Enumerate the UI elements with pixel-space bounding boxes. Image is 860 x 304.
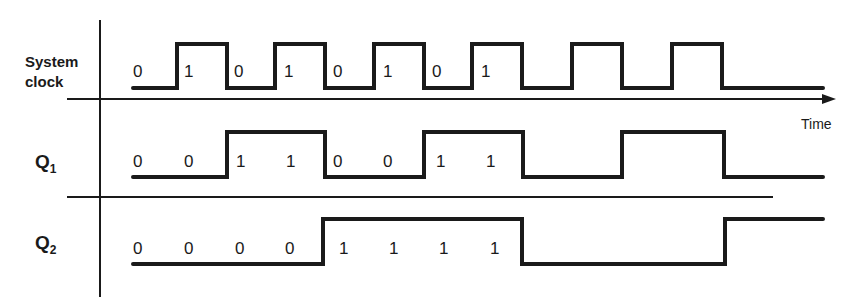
clock-value: 1: [383, 62, 392, 81]
q2-value: 1: [339, 239, 348, 258]
time-label: Time: [801, 116, 832, 132]
clock-values: 0 1 0 1 0 1 0 1: [133, 62, 490, 81]
q1-value: 0: [133, 152, 142, 171]
q2-value: 0: [133, 239, 142, 258]
q1-value: 0: [383, 152, 392, 171]
q2-value: 1: [389, 239, 398, 258]
q1-label: Q1: [35, 151, 57, 176]
clock-value: 0: [234, 62, 243, 81]
q2-value: 1: [439, 239, 448, 258]
q1-value: 1: [236, 152, 245, 171]
q2-value: 0: [285, 239, 294, 258]
q2-label: Q2: [35, 232, 57, 257]
clock-value: 0: [133, 62, 142, 81]
q2-value: 0: [184, 239, 193, 258]
q1-value: 0: [184, 152, 193, 171]
clock-label-line1: System: [25, 53, 78, 70]
clock-label-line2: clock: [25, 73, 64, 90]
q2-values: 0 0 0 0 1 1 1 1: [133, 239, 499, 258]
q1-value: 0: [333, 152, 342, 171]
clock-value: 0: [432, 62, 441, 81]
clock-value: 0: [333, 62, 342, 81]
q1-value: 1: [436, 152, 445, 171]
time-arrow-icon: [822, 94, 836, 104]
q1-value: 1: [286, 152, 295, 171]
q2-value: 1: [490, 239, 499, 258]
clock-value: 1: [481, 62, 490, 81]
clock-value: 1: [184, 62, 193, 81]
clock-value: 1: [284, 62, 293, 81]
q1-values: 0 0 1 1 0 0 1 1: [133, 152, 495, 171]
q2-value: 0: [235, 239, 244, 258]
timing-diagram: System clock Q1 Q2 Time 0 1 0 1 0 1 0 1 …: [0, 0, 860, 304]
q1-value: 1: [486, 152, 495, 171]
